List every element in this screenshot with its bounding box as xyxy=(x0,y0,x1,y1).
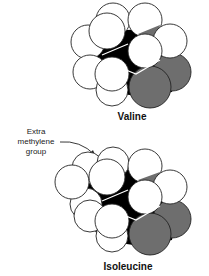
valine-model xyxy=(71,3,191,108)
amino-acid-figure: Valine Extra methylene group Isoleucine xyxy=(0,0,209,276)
valine-atom xyxy=(95,57,129,91)
isoleucine-label: Isoleucine xyxy=(104,261,153,272)
annotation-line-3: group xyxy=(26,147,47,156)
isoleucine-atom xyxy=(89,159,125,195)
valine-atom xyxy=(89,13,125,49)
annotation-line-2: methylene xyxy=(18,137,55,146)
isoleucine-model xyxy=(55,147,191,255)
isoleucine-atom xyxy=(128,180,162,214)
valine-label: Valine xyxy=(118,111,147,122)
annotation-line-1: Extra xyxy=(27,127,46,136)
valine-atom xyxy=(128,34,162,68)
extra-methylene-annotation: Extra methylene group xyxy=(18,127,95,156)
isoleucine-atom xyxy=(55,165,89,199)
isoleucine-atom xyxy=(95,204,129,238)
valine-oxygen-atom xyxy=(129,66,171,108)
